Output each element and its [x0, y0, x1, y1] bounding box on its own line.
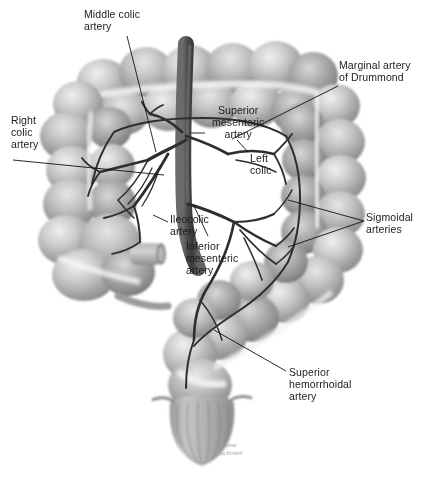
leader-ileocolic — [153, 215, 168, 222]
label-left-colic: Left colic — [250, 152, 272, 176]
label-middle-colic-artery: Middle colic artery — [84, 8, 140, 32]
artist-signature: Anna Cochrane — [215, 441, 243, 458]
label-right-colic-artery: Right colic artery — [11, 114, 38, 151]
cecum — [38, 214, 168, 307]
label-superior-mesenteric-artery: Superior mesenteric artery — [212, 104, 264, 141]
illustration-page: Middle colic artery Right colic artery S… — [0, 0, 422, 479]
label-ileocolic-artery: Ileocolic artery — [170, 213, 209, 237]
label-marginal-artery-of-drummond: Marginal artery of Drummond — [339, 59, 411, 83]
label-sigmoidal-arteries: Sigmoidal arteries — [366, 211, 413, 235]
ileum-stump — [130, 243, 166, 265]
label-superior-hemorrhoidal-artery: Superior hemorrhoidal artery — [289, 366, 351, 403]
leader-left-colic — [237, 140, 248, 152]
label-inferior-mesenteric-artery: Inferior mesenteric artery — [186, 240, 238, 277]
